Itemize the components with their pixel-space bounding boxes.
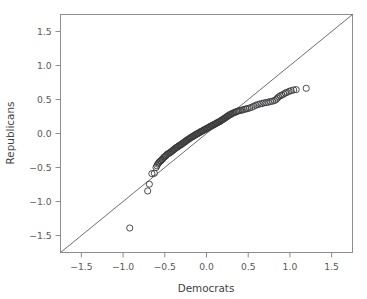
y-tick-label: 1.0 [37,60,52,71]
data-point [303,85,309,91]
data-points-group [127,85,310,231]
data-point [127,225,133,231]
identity-reference-line [61,15,353,253]
x-tick-label: −0.5 [154,261,176,272]
reference-line-group [61,15,353,253]
y-tick-label: −1.5 [29,230,51,241]
qq-plot-figure: −1.5−1.0−0.50.00.51.01.5 1.51.00.50.0−0.… [0,0,367,299]
chart-canvas: −1.5−1.0−0.50.00.51.01.5 1.51.00.50.0−0.… [0,0,367,299]
x-tick-label: 0.5 [241,261,256,272]
y-tick-label: 0.5 [37,94,52,105]
x-axis-tick-labels: −1.5−1.0−0.50.00.51.01.5 [70,261,339,272]
y-axis-tick-labels: 1.51.00.50.0−0.5−1.0−1.5 [29,26,51,241]
x-axis-title: Democrats [178,282,235,294]
x-tick-label: −1.5 [70,261,92,272]
data-point [145,188,151,194]
x-tick-label: 0.0 [199,261,214,272]
y-tick-label: −0.5 [29,162,51,173]
x-axis-ticks [81,253,331,258]
y-tick-label: −1.0 [29,196,51,207]
y-tick-label: 0.0 [37,128,52,139]
data-point [146,181,152,187]
x-tick-label: 1.5 [324,261,339,272]
x-tick-label: 1.0 [283,261,298,272]
y-axis-title: Republicans [4,102,16,165]
y-axis-ticks [56,32,61,236]
x-tick-label: −1.0 [112,261,134,272]
y-tick-label: 1.5 [37,26,52,37]
